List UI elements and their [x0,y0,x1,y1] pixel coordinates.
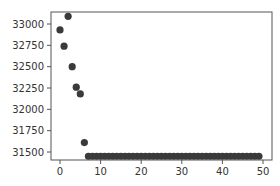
x-tick-label: 10 [94,166,107,177]
x-tick-label: 0 [57,166,63,177]
y-axis: 31500317503200032250325003275033000 [12,19,51,158]
x-tick-label: 20 [135,166,148,177]
y-tick-label: 32500 [12,61,44,72]
x-tick-label: 50 [257,166,270,177]
x-tick-label: 40 [216,166,229,177]
data-point [60,43,67,50]
data-point [77,90,84,97]
data-point [56,26,63,33]
x-tick-label: 30 [175,166,188,177]
y-tick-label: 32750 [12,40,44,51]
data-point [73,84,80,91]
data-point [81,139,88,146]
y-tick-label: 32250 [12,83,44,94]
data-point [65,13,72,20]
y-tick-label: 33000 [12,19,44,30]
x-axis: 01020304050 [57,160,270,177]
data-point [255,153,262,160]
scatter-chart: 01020304050 3150031750320003225032500327… [0,0,280,186]
data-point [69,63,76,70]
y-tick-label: 31500 [12,147,44,158]
y-tick-label: 32000 [12,104,44,115]
plot-area [51,12,272,160]
y-tick-label: 31750 [12,125,44,136]
